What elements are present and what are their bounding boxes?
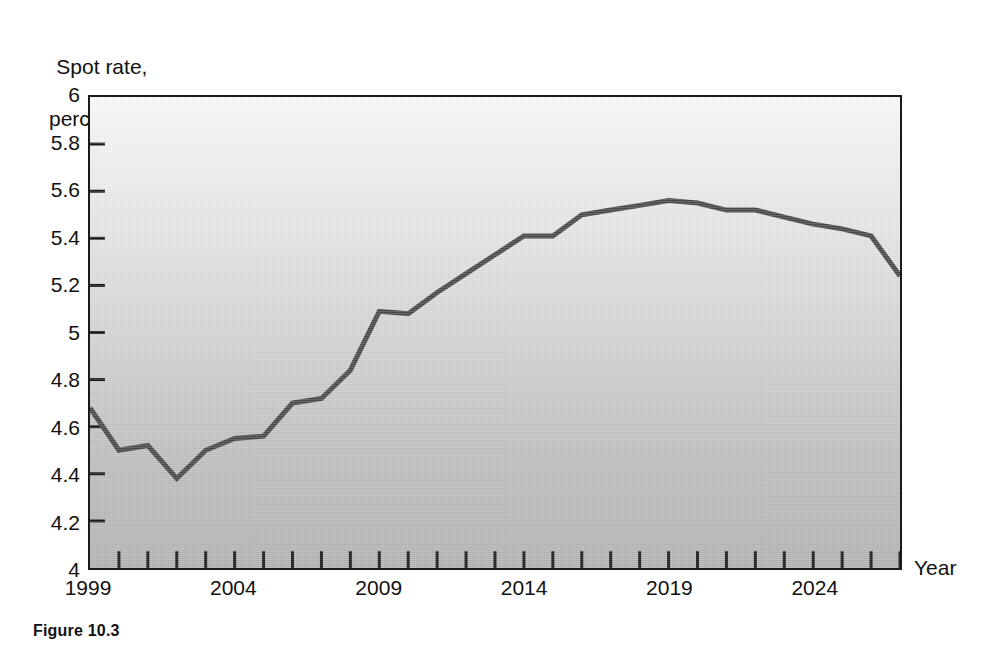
y-axis-tick-label: 4.6 — [6, 417, 80, 438]
y-axis-tick-label: 5.6 — [6, 179, 80, 200]
x-axis-title: Year — [914, 557, 956, 578]
figure-container: Spot rate, percent 65.85.65.45.254.84.64… — [0, 0, 997, 652]
x-axis-tick-label: 2004 — [210, 577, 257, 598]
x-axis-tick-label: 2024 — [791, 577, 838, 598]
y-axis-tick-label: 6 — [6, 84, 80, 105]
y-axis-tick-label: 5.4 — [6, 227, 80, 248]
x-axis-tick-label: 2019 — [646, 577, 693, 598]
figure-caption: Figure 10.3 — [33, 622, 120, 640]
spot-rate-line — [90, 201, 900, 479]
y-axis-tick-label: 4.4 — [6, 464, 80, 485]
y-axis-tick-label: 5.8 — [6, 132, 80, 153]
y-axis-tick-label: 5.2 — [6, 274, 80, 295]
x-axis-tick-label: 2014 — [501, 577, 548, 598]
y-axis-tick-labels: 65.85.65.45.254.84.64.44.24 — [0, 0, 80, 652]
y-axis-tick-label: 5 — [6, 322, 80, 343]
y-axis-tick-label: 4.8 — [6, 369, 80, 390]
plot-area — [88, 95, 902, 570]
axis-tick-marks — [90, 144, 900, 568]
y-axis-tick-label: 4.2 — [6, 512, 80, 533]
x-axis-tick-label: 2009 — [355, 577, 402, 598]
chart-svg — [90, 97, 900, 568]
x-axis-tick-label: 1999 — [65, 577, 112, 598]
